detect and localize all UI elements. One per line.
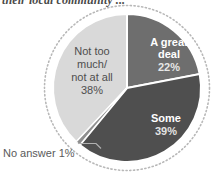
callout-no-answer: No answer 1% — [3, 147, 75, 159]
slice-label-not-too-much-line3: not at all — [71, 71, 113, 83]
slice-value-some: 39% — [135, 125, 197, 137]
slice-value-a-great-deal: 22% — [138, 61, 200, 73]
slice-label-a-great-deal-line2: deal — [158, 48, 180, 60]
chart-figure: their local community ... A great deal 2… — [0, 0, 224, 172]
slice-label-some: Some 39% — [135, 112, 197, 137]
slice-label-not-too-much: Not too much/ not at all 38% — [56, 45, 128, 97]
slice-label-not-too-much-line2: much/ — [77, 58, 107, 70]
slice-label-a-great-deal: A great deal 22% — [138, 36, 200, 73]
slice-label-some-line1: Some — [151, 112, 181, 124]
slice-label-not-too-much-line1: Not too — [74, 45, 109, 57]
slice-label-a-great-deal-line1: A great — [150, 36, 188, 48]
slice-value-not-too-much: 38% — [56, 84, 128, 97]
